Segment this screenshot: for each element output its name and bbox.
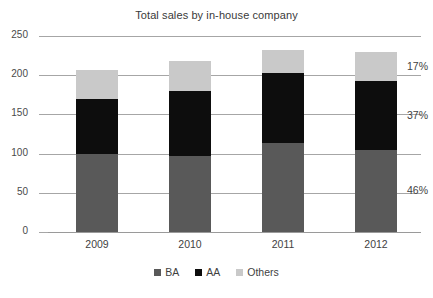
bar-segment-2009-ba[interactable] bbox=[76, 154, 118, 232]
ytick-label-0: 0 bbox=[0, 225, 28, 236]
ytick-label-200: 200 bbox=[0, 68, 28, 79]
xtick-label-2009: 2009 bbox=[67, 238, 127, 250]
bar-group-2011[interactable] bbox=[262, 36, 304, 232]
ytick-label-150: 150 bbox=[0, 107, 28, 118]
ytick-mark-200 bbox=[39, 75, 48, 76]
legend-label-ba: BA bbox=[165, 266, 179, 278]
xtick-label-2012: 2012 bbox=[346, 238, 406, 250]
bar-group-2009[interactable] bbox=[76, 36, 118, 232]
bar-segment-2010-others[interactable] bbox=[169, 61, 211, 91]
legend-label-aa: AA bbox=[206, 266, 220, 278]
ytick-mark-50 bbox=[39, 193, 48, 194]
xtick-label-2011: 2011 bbox=[253, 238, 313, 250]
legend-swatch-others bbox=[236, 269, 243, 276]
bar-segment-2009-others[interactable] bbox=[76, 70, 118, 99]
xtick-label-2010: 2010 bbox=[160, 238, 220, 250]
data-label-others-2012: 17% bbox=[407, 60, 428, 72]
bar-segment-2011-others[interactable] bbox=[262, 50, 304, 73]
ytick-mark-250 bbox=[39, 36, 48, 37]
bar-segment-2011-aa[interactable] bbox=[262, 73, 304, 144]
ytick-mark-100 bbox=[39, 154, 48, 155]
ytick-mark-0 bbox=[39, 232, 48, 233]
legend-label-others: Others bbox=[247, 266, 279, 278]
legend-swatch-aa bbox=[195, 269, 202, 276]
legend-item-ba[interactable]: BA bbox=[154, 266, 179, 278]
ytick-mark-150 bbox=[39, 114, 48, 115]
bar-segment-2012-aa[interactable] bbox=[355, 81, 397, 149]
gridline-0 bbox=[48, 232, 421, 233]
data-label-aa-2012: 37% bbox=[407, 109, 428, 121]
bar-segment-2012-others[interactable] bbox=[355, 52, 397, 82]
bar-segment-2010-ba[interactable] bbox=[169, 156, 211, 232]
legend-swatch-ba bbox=[154, 269, 161, 276]
ytick-label-100: 100 bbox=[0, 147, 28, 158]
bar-segment-2011-ba[interactable] bbox=[262, 143, 304, 232]
bar-segment-2010-aa[interactable] bbox=[169, 91, 211, 156]
chart-title: Total sales by in-house company bbox=[0, 9, 433, 21]
data-label-ba-2012: 46% bbox=[407, 184, 428, 196]
ytick-label-50: 50 bbox=[0, 186, 28, 197]
ytick-label-250: 250 bbox=[0, 29, 28, 40]
chart-legend: BA AA Others bbox=[0, 266, 433, 278]
bar-segment-2009-aa[interactable] bbox=[76, 99, 118, 154]
legend-item-others[interactable]: Others bbox=[236, 266, 279, 278]
chart-container: Total sales by in-house company 05010015… bbox=[0, 0, 433, 298]
bar-group-2012[interactable] bbox=[355, 36, 397, 232]
plot-area: 050100150200250 bbox=[48, 36, 421, 232]
bar-segment-2012-ba[interactable] bbox=[355, 150, 397, 232]
legend-item-aa[interactable]: AA bbox=[195, 266, 220, 278]
bar-group-2010[interactable] bbox=[169, 36, 211, 232]
